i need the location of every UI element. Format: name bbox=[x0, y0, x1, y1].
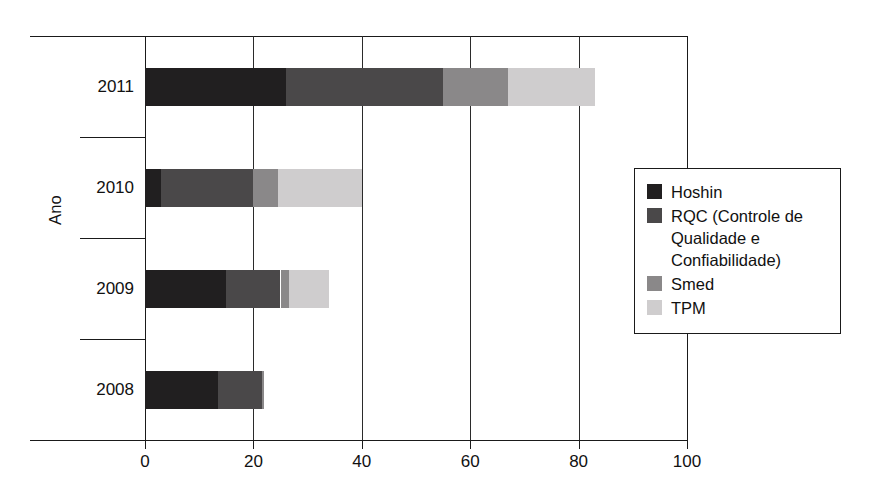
x-tick-label-80: 80 bbox=[549, 452, 609, 472]
x-tick-label-100: 100 bbox=[657, 452, 717, 472]
legend-label: TPM bbox=[671, 297, 706, 319]
bar-segment-2009-tpm bbox=[289, 270, 330, 308]
legend-swatch-icon bbox=[647, 184, 662, 199]
legend-swatch-icon bbox=[647, 276, 662, 291]
bar-segment-2009-smed bbox=[281, 270, 289, 308]
x-tick-20 bbox=[253, 440, 254, 449]
bar-segment-2008-hoshin bbox=[145, 371, 218, 409]
bar-segment-2010-smed bbox=[253, 169, 277, 207]
legend-leader-line bbox=[687, 148, 688, 169]
legend-label: RQC (Controle de Qualidade e Confiabilid… bbox=[671, 205, 830, 271]
bar-segment-2011-rqc bbox=[286, 68, 443, 106]
x-tick-80 bbox=[579, 440, 580, 449]
bar-segment-2009-hoshin bbox=[145, 270, 226, 308]
category-separator-2011 bbox=[80, 137, 145, 138]
x-tick-label-40: 40 bbox=[332, 452, 392, 472]
x-axis-line bbox=[30, 440, 687, 441]
legend-swatch-icon bbox=[647, 208, 662, 223]
legend-label: Smed bbox=[671, 273, 714, 295]
x-tick-label-0: 0 bbox=[115, 452, 175, 472]
bar-segment-2010-rqc bbox=[161, 169, 253, 207]
legend-item-tpm: TPM bbox=[647, 297, 830, 319]
chart-legend: HoshinRQC (Controle de Qualidade e Confi… bbox=[634, 168, 841, 334]
legend-item-smed: Smed bbox=[647, 273, 830, 295]
x-tick-60 bbox=[470, 440, 471, 449]
bar-segment-2010-tpm bbox=[278, 169, 362, 207]
category-separator-2010 bbox=[80, 238, 145, 239]
x-tick-label-20: 20 bbox=[223, 452, 283, 472]
bar-2011 bbox=[0, 68, 878, 106]
bar-segment-2010-hoshin bbox=[145, 169, 161, 207]
legend-label: Hoshin bbox=[671, 181, 722, 203]
legend-item-rqc: RQC (Controle de Qualidade e Confiabilid… bbox=[647, 205, 830, 271]
x-tick-0 bbox=[145, 440, 146, 449]
bar-2008 bbox=[0, 371, 878, 409]
bar-segment-2009-rqc bbox=[226, 270, 280, 308]
bar-segment-2011-hoshin bbox=[145, 68, 286, 106]
x-tick-label-60: 60 bbox=[440, 452, 500, 472]
bar-segment-2011-smed bbox=[443, 68, 508, 106]
bar-segment-2011-tpm bbox=[508, 68, 595, 106]
bar-segment-2008-smed bbox=[262, 371, 265, 409]
x-tick-100 bbox=[687, 440, 688, 449]
category-separator-2009 bbox=[80, 339, 145, 340]
plot-top-rule bbox=[30, 36, 687, 37]
stacked-bar-chart: Ano 020406080100 2011201020092008 Hoshin… bbox=[0, 0, 878, 495]
x-tick-40 bbox=[362, 440, 363, 449]
legend-swatch-icon bbox=[647, 300, 662, 315]
legend-item-hoshin: Hoshin bbox=[647, 181, 830, 203]
bar-segment-2008-rqc bbox=[218, 371, 261, 409]
